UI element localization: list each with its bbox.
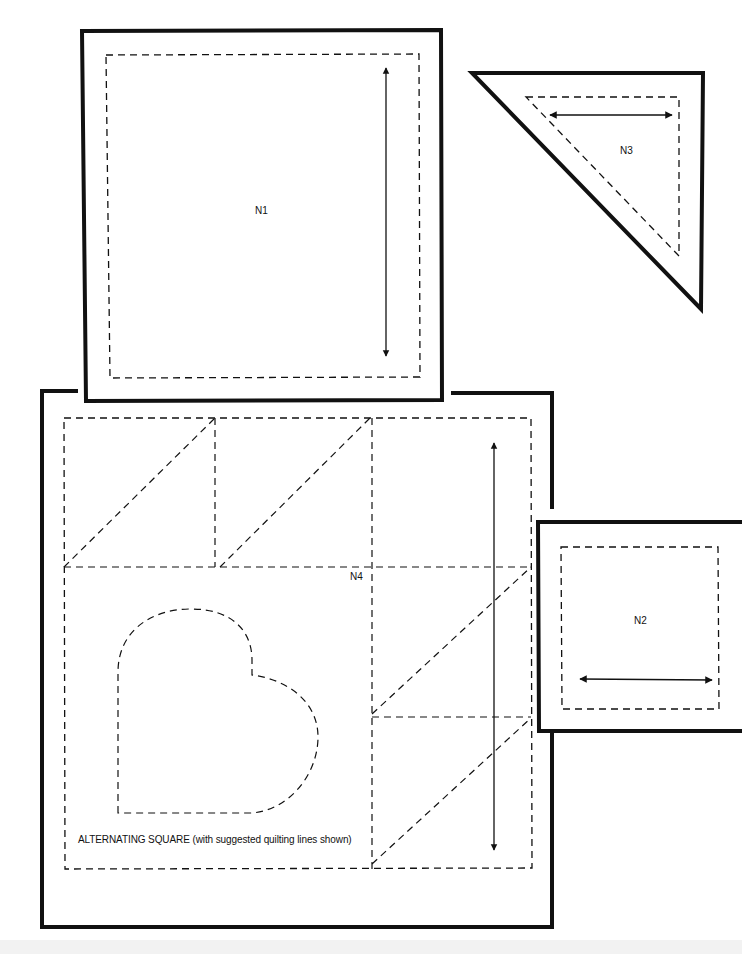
- n4-label: N4: [350, 571, 363, 582]
- n1-label: N1: [255, 205, 268, 216]
- n4-caption: ALTERNATING SQUARE (with suggested quilt…: [78, 834, 352, 845]
- piece-n2: [538, 522, 742, 731]
- piece-n4: [42, 391, 552, 927]
- pattern-page: N1 N3 N4 N2 ALTERNATING SQUARE (with sug…: [0, 0, 742, 954]
- n3-label: N3: [620, 145, 633, 156]
- n1-seam-line: [106, 54, 420, 378]
- piece-n3: [472, 73, 703, 309]
- n3-cut-line: [472, 73, 703, 309]
- n4-quilting-lines: [64, 418, 531, 869]
- n4-cut-line: [42, 391, 552, 927]
- pattern-diagram: [0, 0, 742, 954]
- n2-label: N2: [634, 615, 647, 626]
- n2-cut-line: [538, 522, 742, 731]
- n2-grainline-arrow: [580, 679, 712, 680]
- n4-seam-line: [64, 418, 532, 869]
- n3-seam-line: [526, 97, 679, 256]
